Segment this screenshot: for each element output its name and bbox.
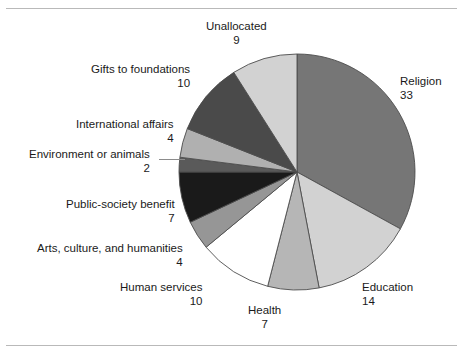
slice-label-gifts-to-foundations: Gifts to foundations 10: [91, 63, 190, 90]
slice-label-religion: Religion 33: [400, 75, 442, 102]
slice-label-public-society-benefit-name: Public-society benefit: [66, 198, 175, 212]
slice-label-unallocated: Unallocated 9: [206, 20, 267, 47]
slice-label-environment-or-animals: Environment or animals 2: [29, 148, 150, 175]
slice-label-health: Health 7: [248, 304, 281, 331]
slice-label-international-affairs-value: 4: [76, 132, 174, 146]
slice-label-international-affairs: International affairs 4: [76, 118, 174, 145]
pie-chart-figure: Unallocated 9 Gifts to foundations 10 In…: [0, 0, 463, 354]
slice-label-environment-or-animals-name: Environment or animals: [29, 148, 150, 162]
slice-label-public-society-benefit-value: 7: [66, 212, 175, 226]
slice-label-arts-culture-humanities-value: 4: [37, 256, 183, 270]
slice-label-religion-value: 33: [400, 89, 442, 103]
slice-label-human-services-name: Human services: [120, 281, 202, 295]
pie-slices-group: [179, 54, 415, 290]
slice-label-education: Education 14: [362, 281, 413, 308]
slice-label-arts-culture-humanities: Arts, culture, and humanities 4: [37, 242, 183, 269]
slice-label-environment-or-animals-value: 2: [29, 162, 150, 176]
slice-label-gifts-to-foundations-value: 10: [91, 77, 190, 91]
slice-label-international-affairs-name: International affairs: [76, 118, 174, 132]
slice-label-unallocated-value: 9: [206, 34, 267, 48]
slice-label-unallocated-name: Unallocated: [206, 20, 267, 34]
slice-label-human-services: Human services 10: [120, 281, 202, 308]
slice-label-health-name: Health: [248, 304, 281, 318]
slice-label-education-value: 14: [362, 295, 413, 309]
slice-label-health-value: 7: [248, 318, 281, 332]
slice-label-public-society-benefit: Public-society benefit 7: [66, 198, 175, 225]
slice-label-arts-culture-humanities-name: Arts, culture, and humanities: [37, 242, 183, 256]
slice-label-gifts-to-foundations-name: Gifts to foundations: [91, 63, 190, 77]
leader-line-environment-or-animals: [159, 159, 185, 160]
slice-label-education-name: Education: [362, 281, 413, 295]
slice-label-religion-name: Religion: [400, 75, 442, 89]
slice-label-human-services-value: 10: [120, 295, 202, 309]
